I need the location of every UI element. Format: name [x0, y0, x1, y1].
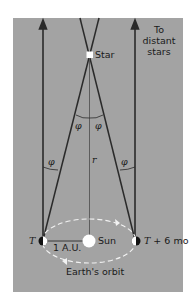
distant-stars-line-3: stars — [142, 46, 176, 57]
star — [87, 52, 94, 59]
distance-r-label: r — [92, 154, 97, 165]
earth-t6 — [132, 237, 141, 246]
distant-stars-label: To distant stars — [142, 24, 176, 57]
sun — [83, 235, 96, 248]
phi-label-left-star: φ — [75, 120, 82, 131]
star-label: Star — [95, 49, 114, 60]
phi-label-left: φ — [48, 156, 55, 167]
orbit-label: Earth's orbit — [66, 266, 124, 277]
sight-lines — [43, 18, 135, 240]
distant-stars-line-2: distant — [142, 35, 176, 46]
distant-stars-line-1: To — [142, 24, 176, 35]
au-label: 1 A.U. — [53, 242, 81, 253]
sun-label: Sun — [98, 235, 116, 246]
earth-t6-label: T + 6 mo — [144, 235, 188, 246]
phi-arcs-side — [43, 167, 135, 170]
earth-t — [39, 237, 48, 246]
t6-rest: + 6 mo — [150, 235, 188, 246]
phi-label-right-star: φ — [95, 120, 102, 131]
earth-t-label: T — [29, 235, 35, 246]
phi-label-right: φ — [121, 156, 128, 167]
